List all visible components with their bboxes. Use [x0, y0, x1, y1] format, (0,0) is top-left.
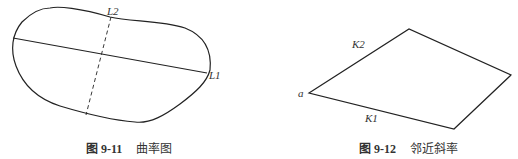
line-l1	[13, 38, 207, 73]
label-k2: K2	[351, 38, 365, 50]
blob-outline	[13, 7, 211, 122]
diagram-canvas: L2 L1 a K2 K1	[0, 0, 518, 159]
label-k1: K1	[364, 112, 378, 124]
adjacent-slope-figure: a K2 K1	[298, 29, 511, 129]
line-l2-dashed	[86, 17, 111, 115]
label-l1: L1	[208, 69, 221, 81]
label-l2: L2	[106, 5, 119, 17]
curvature-figure: L2 L1	[13, 5, 221, 122]
caption-number: 图 9-11	[86, 142, 122, 156]
label-a: a	[298, 87, 304, 99]
caption-number: 图 9-12	[359, 142, 396, 156]
caption-fig-9-12: 图 9-12邻近斜率	[359, 139, 458, 157]
caption-fig-9-11: 图 9-11曲率图	[86, 139, 172, 157]
caption-title: 邻近斜率	[410, 142, 458, 156]
quadrilateral	[309, 29, 511, 129]
caption-title: 曲率图	[136, 142, 172, 156]
